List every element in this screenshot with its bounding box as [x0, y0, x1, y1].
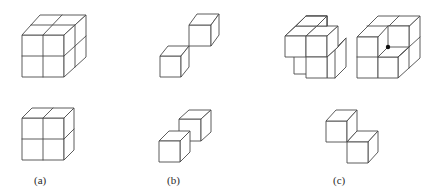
- corner-marker-dot: [386, 45, 390, 49]
- panel-c-cube-corner-removed: [357, 16, 420, 78]
- panel-b-cubes-edge-joined: [159, 110, 211, 162]
- panel-b-cubes-vertex-joined: [160, 14, 219, 77]
- panel-a-cube-2x2x2: [22, 15, 86, 77]
- panel-c-cubes-edge-shared: [326, 110, 378, 163]
- cube-diagram: (a) (b): [0, 0, 440, 193]
- panel-c-label: (c): [333, 174, 346, 187]
- panel-b-label: (b): [167, 174, 180, 187]
- panel-a-slab-2x2x1: [22, 108, 74, 160]
- panel-a-label: (a): [34, 174, 47, 187]
- panel-c-partial-cube: [285, 16, 346, 78]
